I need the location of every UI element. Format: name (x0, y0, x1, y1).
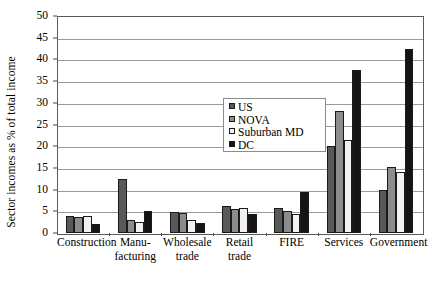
y-tick-label: 15 (37, 162, 49, 174)
legend-item: DC (229, 139, 325, 152)
bar-group (118, 16, 152, 233)
x-tick-label: Wholesale trade (161, 236, 213, 263)
bar-group (66, 16, 100, 233)
legend-swatch-icon (229, 103, 235, 109)
legend-label: DC (238, 139, 254, 152)
legend-item: US (229, 101, 325, 114)
legend-label: Suburban MD (238, 126, 304, 139)
bar-us-4 (274, 208, 283, 233)
x-tick-label: Retail trade (213, 236, 265, 263)
bar-us-3 (222, 206, 231, 233)
y-tick-label: 0 (42, 227, 48, 239)
y-tick-label: 40 (37, 54, 49, 66)
bar-suburban-md-5 (344, 140, 353, 233)
legend-swatch-icon (229, 128, 235, 134)
legend-label: US (238, 101, 253, 114)
bar-dc-4 (300, 192, 309, 233)
bar-nova-0 (74, 217, 83, 233)
bar-suburban-md-2 (187, 220, 196, 233)
y-tick-label: 20 (37, 140, 49, 152)
x-tick-label: Government (370, 236, 422, 250)
x-tick-label: FIRE (266, 236, 318, 250)
bar-nova-4 (283, 211, 292, 233)
bar-us-1 (118, 179, 127, 233)
bar-group (379, 16, 413, 233)
bar-nova-6 (387, 167, 396, 233)
bar-us-2 (170, 212, 179, 233)
y-tick-label: 35 (37, 75, 49, 87)
x-tick-label: Manu- facturing (109, 236, 161, 263)
y-tick-label: 10 (37, 184, 49, 196)
bar-dc-0 (92, 224, 101, 233)
y-tick-label: 50 (37, 10, 49, 22)
bar-nova-2 (179, 213, 188, 233)
y-tick-label: 30 (37, 97, 49, 109)
bar-suburban-md-6 (396, 172, 405, 233)
bar-suburban-md-0 (83, 216, 92, 233)
legend-item: NOVA (229, 114, 325, 127)
bar-suburban-md-1 (135, 222, 144, 233)
bar-us-6 (379, 190, 388, 233)
y-tick-label: 45 (37, 32, 49, 44)
x-axis: ConstructionManu- facturingWholesale tra… (57, 236, 422, 276)
x-tick-label: Construction (57, 236, 109, 250)
legend-label: NOVA (238, 114, 270, 127)
bar-us-5 (327, 146, 336, 233)
legend-swatch-icon (229, 116, 235, 122)
y-axis: 05101520253035404550 (0, 16, 57, 233)
y-tick-label: 5 (42, 206, 48, 218)
bar-nova-5 (335, 111, 344, 233)
y-tick-label: 25 (37, 119, 49, 131)
bar-chart: Sector incomes as % of total income 0510… (0, 0, 447, 284)
bar-dc-1 (144, 211, 153, 233)
x-tick-label: Services (318, 236, 370, 250)
bar-dc-3 (248, 214, 257, 233)
bar-group (170, 16, 204, 233)
bar-us-0 (66, 216, 75, 233)
bar-dc-6 (405, 49, 414, 233)
bar-nova-1 (127, 220, 136, 233)
bar-nova-3 (231, 209, 240, 233)
legend-item: Suburban MD (229, 126, 325, 139)
bar-suburban-md-4 (292, 214, 301, 233)
bar-dc-5 (352, 70, 361, 233)
legend-swatch-icon (229, 141, 235, 147)
bar-suburban-md-3 (239, 208, 248, 233)
bar-group (327, 16, 361, 233)
bar-dc-2 (196, 223, 205, 233)
chart-legend: USNOVASuburban MDDC (223, 98, 326, 152)
